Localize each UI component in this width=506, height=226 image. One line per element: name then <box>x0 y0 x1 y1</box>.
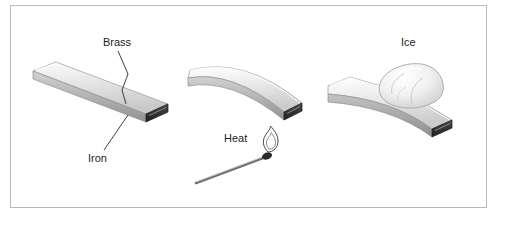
bimetallic-strip-illustration: Brass Iron Heat <box>0 0 506 226</box>
match-head <box>261 151 273 161</box>
heat-callout: Heat <box>196 126 278 183</box>
iron-callout: Iron <box>88 115 128 164</box>
label-heat: Heat <box>224 132 247 144</box>
ice-block <box>379 64 443 109</box>
strip1-top-face <box>33 62 168 114</box>
figure-root: Brass Iron Heat <box>0 0 506 226</box>
match-stick <box>196 158 263 183</box>
label-iron: Iron <box>88 152 107 164</box>
label-ice: Ice <box>401 36 416 48</box>
iron-leader-line <box>104 115 128 150</box>
panel-straight-strip <box>33 62 168 122</box>
match-stick-highlight <box>197 157 262 181</box>
panel-heated-strip <box>188 67 302 120</box>
label-brass: Brass <box>103 36 132 48</box>
flame-icon <box>263 126 278 152</box>
